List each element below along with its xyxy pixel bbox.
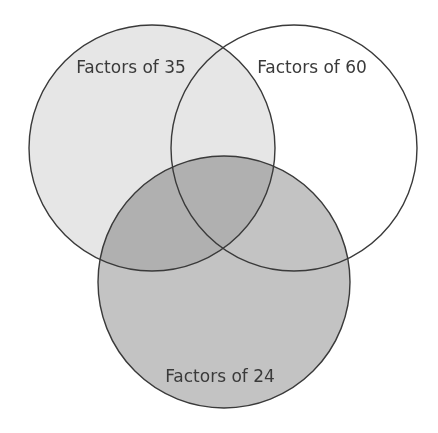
venn-diagram: Factors of 35 Factors of 60 Factors of 2… — [0, 0, 438, 433]
set-35-label: Factors of 35 — [76, 57, 186, 77]
set-60-label: Factors of 60 — [257, 57, 367, 77]
set-fills — [29, 25, 417, 408]
set-24-label: Factors of 24 — [165, 366, 275, 386]
